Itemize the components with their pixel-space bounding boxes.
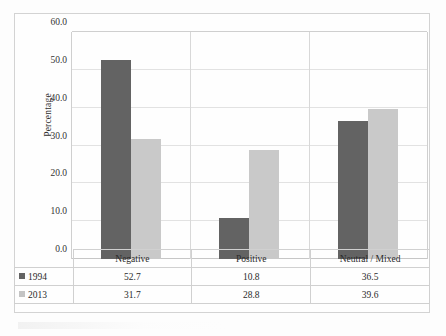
y-axis-tick-label: 60.0: [50, 17, 67, 27]
category-header-cell: Negative: [73, 250, 192, 268]
table-row-categories: NegativePositiveNeutral / Mixed: [15, 250, 430, 268]
legend-label: 2013: [28, 290, 47, 300]
bar-group: [72, 32, 190, 259]
legend-label: 1994: [28, 272, 47, 282]
bar-series-container: [72, 32, 427, 259]
plot-area: 0.010.020.030.040.050.060.0: [71, 32, 428, 259]
table-value-cell: 28.8: [192, 286, 311, 304]
category-header-cell: Positive: [192, 250, 311, 268]
table-value-cell: 52.7: [73, 268, 192, 286]
table-value-cell: 10.8: [192, 268, 311, 286]
table-value-cell: 36.5: [311, 268, 430, 286]
bar-1994-negative: [101, 60, 131, 259]
scanned-page: Percentage 0.010.020.030.040.050.060.0 N…: [0, 0, 446, 336]
y-axis-tick-label: 10.0: [50, 206, 67, 216]
y-axis-tick-label: 20.0: [50, 168, 67, 178]
bar-1994-neutral-mixed: [338, 121, 368, 259]
bar-group: [190, 32, 308, 259]
data-table: NegativePositiveNeutral / Mixed199452.71…: [14, 249, 430, 304]
table-corner-cell: [15, 250, 74, 268]
category-header-cell: Neutral / Mixed: [311, 250, 430, 268]
legend-swatch-light: [19, 291, 25, 297]
y-axis-tick-label: 50.0: [50, 55, 67, 65]
bar-2013-neutral-mixed: [368, 109, 398, 259]
bar-2013-positive: [249, 150, 279, 259]
y-axis-tick-label: 30.0: [50, 131, 67, 141]
legend-swatch-dark: [19, 273, 25, 279]
y-axis-title: Percentage: [43, 60, 53, 170]
legend-cell-1994: 1994: [15, 268, 74, 286]
y-axis-tick-label: 40.0: [50, 93, 67, 103]
legend-cell-2013: 2013: [15, 286, 74, 304]
bar-group: [309, 32, 427, 259]
table-value-cell: 31.7: [73, 286, 192, 304]
table-value-cell: 39.6: [311, 286, 430, 304]
table-row: 201331.728.839.6: [15, 286, 430, 304]
bar-2013-negative: [131, 139, 161, 259]
table-row: 199452.710.836.5: [15, 268, 430, 286]
scan-artifact: [18, 322, 228, 329]
